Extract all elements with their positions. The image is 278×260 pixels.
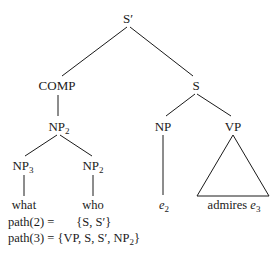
path-3-rhs: {VP, S, S′, NP2}: [57, 231, 139, 245]
path-3-equation: path(3) = {VP, S, S′, NP2}: [8, 232, 140, 245]
node-np2-top: NP2: [48, 120, 69, 133]
node-comp: COMP: [39, 79, 76, 92]
edge-s-vp: [197, 94, 231, 116]
leaf-what: what: [12, 199, 36, 212]
edge-sbar-comp: [62, 27, 127, 76]
path-2-rhs: {S, S′}: [76, 215, 111, 229]
edge-sbar-s: [130, 27, 193, 76]
leaf-who: who: [82, 199, 104, 212]
node-np: NP: [155, 120, 172, 133]
path-2-lhs: path(2) =: [8, 215, 54, 229]
vp-triangle: [197, 135, 269, 196]
node-s-bar: S′: [123, 12, 133, 25]
edge-s-np: [166, 94, 195, 116]
node-np3: NP3: [12, 159, 33, 172]
edge-np2-np3: [25, 135, 57, 156]
node-np2-right: NP2: [82, 159, 103, 172]
path-3-lhs: path(3) =: [8, 231, 54, 245]
node-s: S: [192, 79, 199, 92]
leaf-admires-e3: admires e3: [208, 199, 261, 212]
path-2-equation: path(2) ={S, S′}: [8, 216, 111, 229]
edge-np2-np2: [60, 135, 92, 156]
node-vp: VP: [225, 120, 242, 133]
leaf-e2-trace: e2: [159, 199, 169, 212]
